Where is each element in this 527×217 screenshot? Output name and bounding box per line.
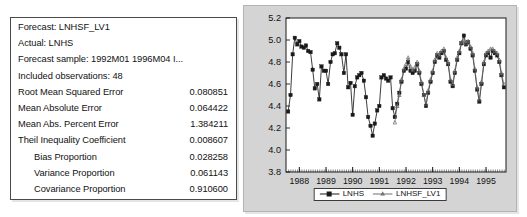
statistic-row: Theil Inequality Coefficient0.008607 [18, 135, 230, 151]
statistic-row: Variance Proportion0.061143 [18, 168, 230, 184]
legend-label-forecast: LNHSF_LV1 [396, 190, 440, 198]
y-axis-tick-label: 4.0 [268, 145, 281, 155]
statistic-value: 0.910600 [190, 184, 230, 194]
statistic-label: Covariance Proportion [18, 184, 125, 194]
legend-label-actual: LNHS [343, 190, 364, 198]
y-axis-tick-label: 4.8 [268, 57, 281, 67]
statistic-row: Forecast sample: 1992M01 1996M04 I... [18, 54, 230, 70]
statistic-label: Mean Absolute Error [18, 103, 102, 113]
x-axis-tick-label: 1995 [476, 176, 496, 186]
statistic-label: Theil Inequality Coefficient [18, 135, 125, 145]
y-axis-tick-label: 4.2 [268, 123, 281, 133]
statistic-row: Forecast: LNHSF_LV1 [18, 22, 230, 38]
y-axis-tick-label: 4.6 [268, 79, 281, 89]
eviews-forecast-output: Forecast: LNHSF_LV1Actual: LNHSForecast … [0, 0, 527, 217]
statistics-rows: Forecast: LNHSF_LV1Actual: LNHSForecast … [18, 22, 230, 200]
statistic-label: Root Mean Squared Error [18, 87, 123, 97]
plot-area: 3.84.04.24.44.64.85.05.21988198919901991… [244, 6, 518, 213]
x-axis-tick-label: 1990 [343, 176, 363, 186]
statistic-value: 0.080851 [190, 87, 230, 97]
x-axis-tick-label: 1991 [370, 176, 390, 186]
statistic-value: 0.028258 [190, 152, 230, 162]
x-axis-tick-label: 1989 [316, 176, 336, 186]
legend-item-forecast: LNHSF_LV1 [373, 190, 440, 198]
x-axis-tick-label: 1993 [423, 176, 443, 186]
y-axis-tick-label: 4.4 [268, 101, 281, 111]
x-axis-tick-label: 1992 [396, 176, 416, 186]
statistic-label: Variance Proportion [18, 168, 115, 178]
statistic-label: Included observations: 48 [18, 71, 123, 81]
statistic-label: Forecast: LNHSF_LV1 [18, 22, 110, 32]
statistic-row: Actual: LNHS [18, 38, 230, 54]
legend-item-actual: LNHS [320, 190, 364, 198]
y-axis-tick-label: 5.2 [268, 13, 281, 23]
forecast-chart-panel: 3.84.04.24.44.64.85.05.21988198919901991… [243, 5, 517, 212]
statistic-label: Forecast sample: 1992M01 1996M04 I... [18, 54, 183, 64]
statistic-label: Actual: LNHS [18, 38, 73, 48]
forecast-line-chart: 3.84.04.24.44.64.85.05.21988198919901991… [244, 6, 518, 213]
chart-legend: LNHS LNHSF_LV1 [314, 188, 447, 201]
statistic-row: Root Mean Squared Error0.080851 [18, 87, 230, 103]
statistic-label: Mean Abs. Percent Error [18, 119, 119, 129]
statistic-row: Included observations: 48 [18, 71, 230, 87]
legend-marker-filled-square-icon [320, 190, 340, 198]
y-axis-tick-label: 5.0 [268, 35, 281, 45]
x-axis-tick-label: 1994 [450, 176, 470, 186]
statistic-value: 0.008607 [190, 135, 230, 145]
statistic-value: 0.061143 [190, 168, 230, 178]
statistic-row: Bias Proportion0.028258 [18, 152, 230, 168]
statistic-row: Covariance Proportion0.910600 [18, 184, 230, 200]
statistic-label: Bias Proportion [18, 152, 97, 162]
legend-marker-triangle-icon [373, 190, 393, 198]
statistic-row: Mean Abs. Percent Error1.384211 [18, 119, 230, 135]
statistic-value: 0.064422 [190, 103, 230, 113]
y-axis-tick-label: 3.8 [268, 167, 281, 177]
forecast-statistics-panel: Forecast: LNHSF_LV1Actual: LNHSForecast … [10, 17, 237, 200]
statistic-row: Mean Absolute Error0.064422 [18, 103, 230, 119]
x-axis-tick-label: 1988 [290, 176, 310, 186]
statistic-value: 1.384211 [190, 119, 230, 129]
